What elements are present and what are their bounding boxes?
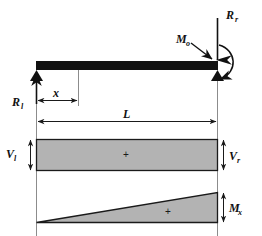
applied-moment-subscript: o: [186, 39, 190, 48]
beam-diagram-figure: R l R r M o x L +: [0, 0, 262, 236]
figure-background: [0, 0, 262, 236]
shear-sign-label: +: [123, 149, 129, 160]
shear-diagram: + V l V r: [6, 140, 241, 171]
moment-x-subscript: x: [237, 208, 242, 217]
dimension-L-label: L: [122, 107, 130, 121]
beam-diagram-svg: R l R r M o x L +: [0, 0, 262, 236]
reaction-right-label: R: [225, 8, 234, 22]
moment-sign-label: +: [165, 206, 171, 217]
dimension-x-label: x: [52, 86, 59, 100]
beam: [36, 61, 218, 70]
reaction-left-label: R: [11, 95, 20, 109]
